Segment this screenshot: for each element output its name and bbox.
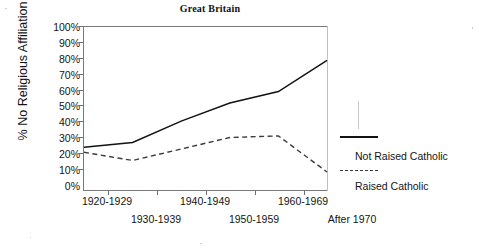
legend-label-not-raised-catholic: Not Raised Catholic [355, 150, 448, 162]
scan-artifact [30, 237, 31, 238]
series-line-raised-catholic [84, 136, 327, 172]
scan-artifact [5, 8, 7, 9]
chart-container: Great Britain % No Religious Affiliation… [0, 0, 479, 251]
legend-swatch-raised-catholic [340, 170, 378, 171]
series-plot-area [0, 0, 479, 251]
series-line-not-raised-catholic [84, 60, 327, 147]
scan-artifact [200, 243, 202, 244]
legend-label-raised-catholic: Raised Catholic [355, 180, 429, 192]
legend-vertical-rule [358, 101, 359, 129]
legend-swatch-not-raised-catholic [340, 136, 378, 138]
scan-artifact [472, 27, 473, 29]
